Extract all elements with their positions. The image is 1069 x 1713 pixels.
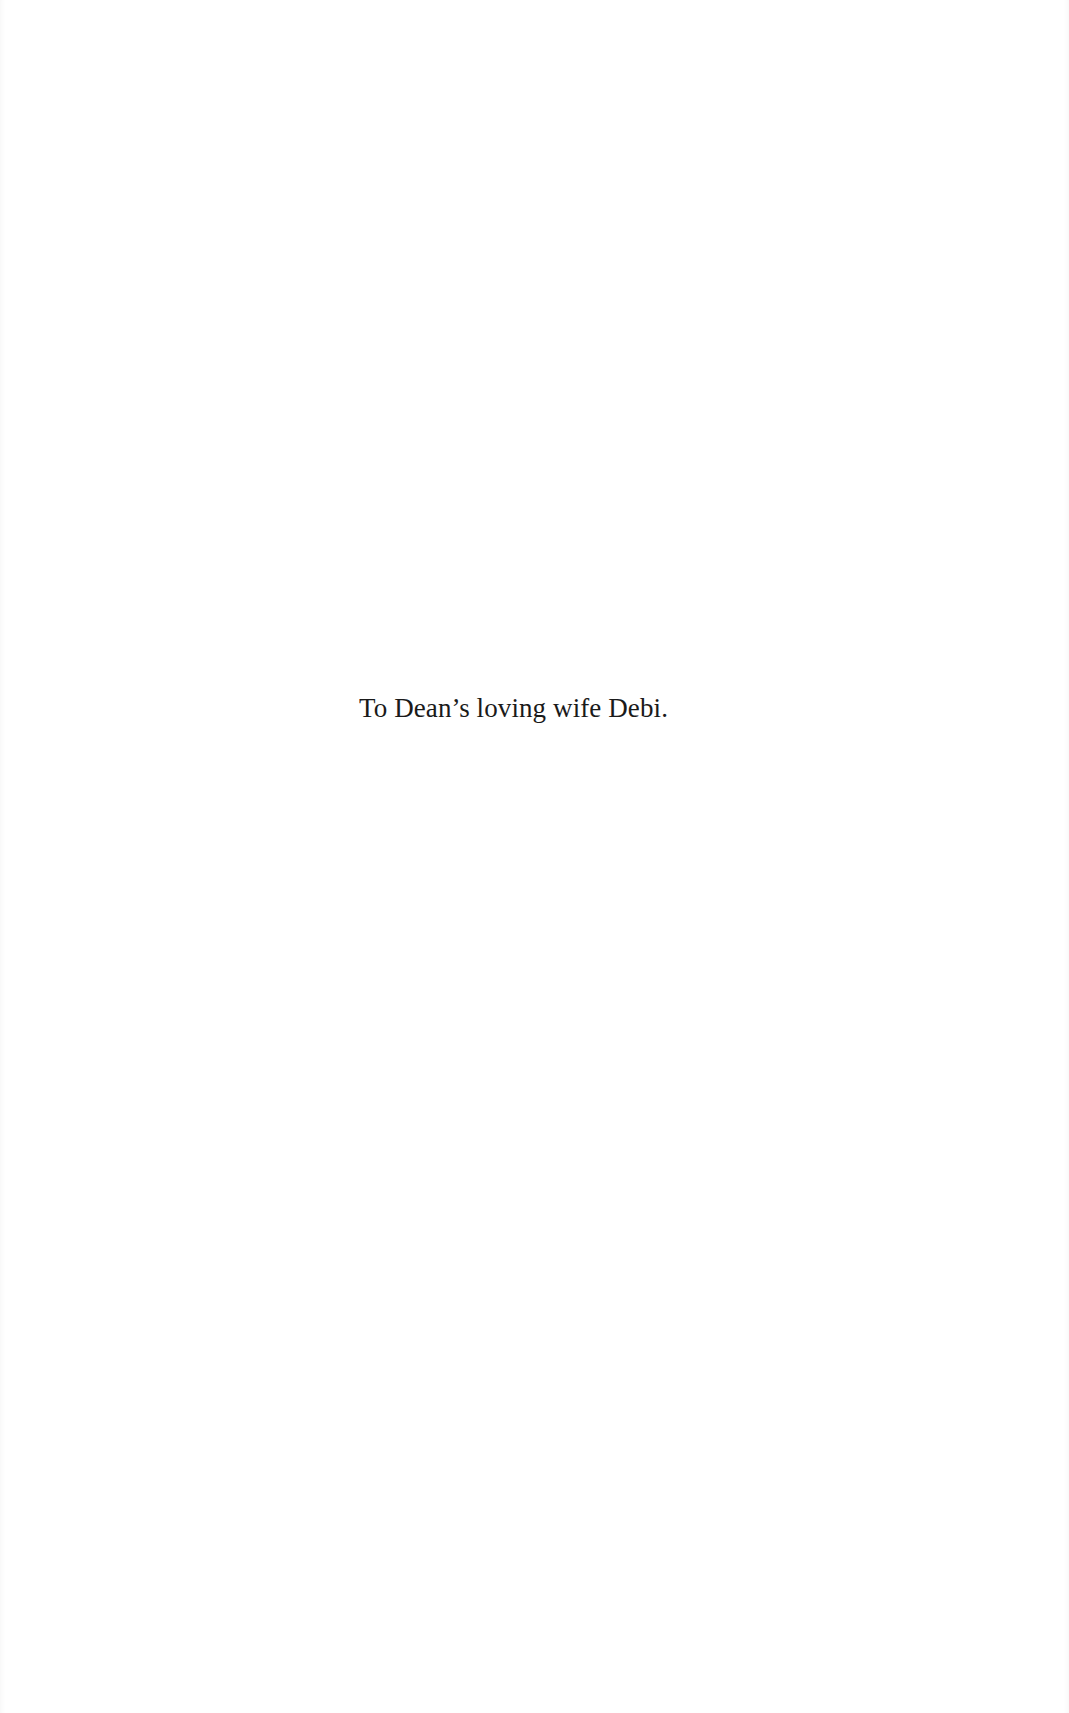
dedication: To Dean’s loving wife Debi. — [0, 690, 1069, 726]
dedication-text: To Dean’s loving wife Debi. — [359, 690, 668, 726]
book-page: To Dean’s loving wife Debi. — [0, 0, 1069, 1713]
